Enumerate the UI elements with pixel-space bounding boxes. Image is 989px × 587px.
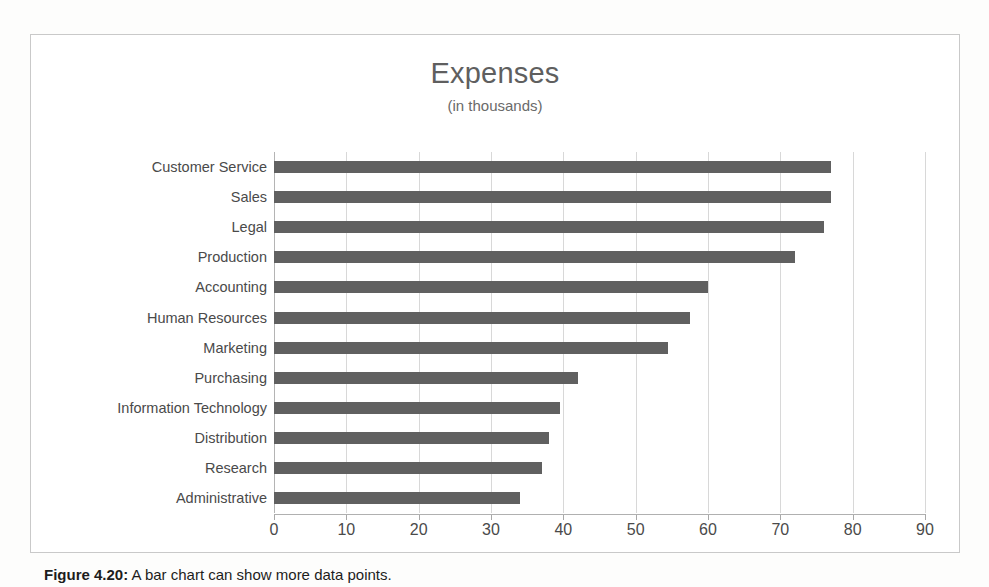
gridline-90 <box>925 152 926 513</box>
bar-row <box>274 363 925 393</box>
x-axis-tick-labels: 0102030405060708090 <box>274 521 925 551</box>
x-axis-line <box>274 514 925 515</box>
bar <box>274 161 831 173</box>
bar <box>274 462 542 474</box>
chart-title: Expenses <box>31 57 959 90</box>
bar-rows <box>274 152 925 514</box>
x-tick-label: 80 <box>844 521 862 539</box>
figure-caption-label: Figure 4.20: <box>44 566 128 583</box>
bar <box>274 281 708 293</box>
category-label: Production <box>71 242 267 272</box>
bar <box>274 251 795 263</box>
category-label: Marketing <box>71 333 267 363</box>
bar-row <box>274 483 925 513</box>
bar <box>274 402 560 414</box>
x-tick-label: 40 <box>554 521 572 539</box>
bar-row <box>274 423 925 453</box>
bar-row <box>274 453 925 483</box>
category-label: Distribution <box>71 423 267 453</box>
x-tick-label: 50 <box>627 521 645 539</box>
chart-subtitle: (in thousands) <box>31 97 959 114</box>
bar-row <box>274 393 925 423</box>
bar <box>274 312 690 324</box>
category-label: Customer Service <box>71 152 267 182</box>
x-tick-label: 10 <box>337 521 355 539</box>
bar-row <box>274 333 925 363</box>
bar <box>274 342 668 354</box>
figure-caption-text: A bar chart can show more data points. <box>132 566 392 583</box>
bar-row <box>274 272 925 302</box>
x-tick-label: 30 <box>482 521 500 539</box>
category-label: Human Resources <box>71 303 267 333</box>
category-label: Sales <box>71 182 267 212</box>
x-tick-label: 60 <box>699 521 717 539</box>
bar <box>274 372 578 384</box>
category-axis-labels: Customer ServiceSalesLegalProductionAcco… <box>71 152 267 514</box>
bar <box>274 191 831 203</box>
x-tick-label: 70 <box>771 521 789 539</box>
bar-row <box>274 242 925 272</box>
bar <box>274 221 824 233</box>
bar <box>274 492 520 504</box>
figure-caption: Figure 4.20: A bar chart can show more d… <box>44 566 392 583</box>
category-label: Administrative <box>71 483 267 513</box>
x-tick-label: 20 <box>410 521 428 539</box>
bar-row <box>274 303 925 333</box>
bar-row <box>274 212 925 242</box>
category-label: Purchasing <box>71 363 267 393</box>
category-label: Information Technology <box>71 393 267 423</box>
category-label: Legal <box>71 212 267 242</box>
bar-row <box>274 182 925 212</box>
bar <box>274 432 549 444</box>
chart-frame: Expenses (in thousands) Customer Service… <box>30 34 960 553</box>
bar-row <box>274 152 925 182</box>
category-label: Research <box>71 453 267 483</box>
plot-area <box>274 152 925 514</box>
x-tick-label: 90 <box>916 521 934 539</box>
x-tick-label: 0 <box>270 521 279 539</box>
category-label: Accounting <box>71 272 267 302</box>
tick-mark-90 <box>925 514 926 520</box>
